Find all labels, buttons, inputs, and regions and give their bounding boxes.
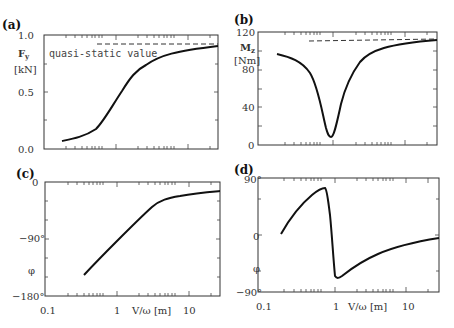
panel-d-curve bbox=[281, 188, 439, 278]
panel-c-frame bbox=[45, 182, 220, 296]
panel-d-ytick-90: 90° bbox=[244, 174, 262, 185]
panel-d: (d) 90° 0 −90° φ 0.1 1 V/ω [m] 10 bbox=[234, 163, 439, 312]
panel-c-ticks bbox=[45, 182, 220, 296]
figure: (a) 1.0 0.5 0.0 Fy [kN] quasi-static val… bbox=[0, 0, 454, 328]
panel-c-curve bbox=[84, 191, 220, 275]
panel-b-ytick-0: 0 bbox=[248, 140, 254, 151]
panel-d-frame bbox=[258, 178, 439, 292]
panel-c-ytick-180: −180° bbox=[12, 291, 44, 302]
panel-b-ytick-120: 120 bbox=[236, 27, 255, 38]
panel-c-xlabel: V/ω [m] bbox=[131, 305, 171, 316]
panel-d-ylabel: φ bbox=[253, 263, 260, 274]
panel-a-curve bbox=[62, 46, 218, 141]
panel-a-ytick-top: 1.0 bbox=[18, 30, 34, 41]
panel-d-ytick-neg90: −90° bbox=[236, 287, 262, 298]
panel-a-yunit: [kN] bbox=[14, 64, 37, 75]
panel-d-xlabel: V/ω [m] bbox=[347, 301, 387, 312]
panel-b-frame bbox=[258, 32, 437, 145]
panel-d-xtick-10: 10 bbox=[402, 301, 415, 312]
panel-b-ytick-40: 40 bbox=[242, 102, 255, 113]
panel-a-ytick-bottom: 0.0 bbox=[18, 144, 34, 155]
panel-a-ylabel: Fy bbox=[18, 48, 30, 61]
quasi-static-annotation: quasi-static value bbox=[49, 48, 157, 59]
panel-b-yunit: [Nm] bbox=[234, 55, 260, 66]
panel-c-xtick-1: 1 bbox=[114, 305, 120, 316]
panel-b-ticks bbox=[258, 32, 437, 145]
panel-a: (a) 1.0 0.5 0.0 Fy [kN] quasi-static val… bbox=[2, 18, 218, 155]
panel-d-xtick-0.1: 0.1 bbox=[256, 301, 272, 312]
panel-d-xtick-1: 1 bbox=[333, 301, 339, 312]
panel-b-asymptote bbox=[309, 39, 437, 41]
panel-d-ytick-0: 0 bbox=[253, 231, 259, 242]
panel-d-ticks bbox=[258, 178, 439, 292]
panel-c-ylabel: φ bbox=[28, 265, 35, 276]
panel-c-xtick-0.1: 0.1 bbox=[40, 305, 56, 316]
panel-b-tag: (b) bbox=[234, 13, 254, 27]
panel-b-ylabel: Mz bbox=[240, 42, 255, 55]
panel-c-xtick-10: 10 bbox=[183, 305, 196, 316]
panel-c-ytick-0: 0 bbox=[32, 177, 38, 188]
panel-b: (b) 120 80 40 0 Mz [Nm] bbox=[234, 13, 437, 151]
panel-c: (c) 0 −90° −180° φ 0.1 1 V/ω [m] 10 bbox=[12, 167, 220, 316]
panel-c-ytick-90: −90° bbox=[19, 233, 45, 244]
panel-b-curve bbox=[277, 40, 437, 137]
panel-a-ytick-mid: 0.5 bbox=[18, 87, 34, 98]
